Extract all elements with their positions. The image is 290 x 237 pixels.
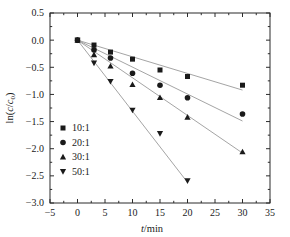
- data-point: [91, 61, 97, 67]
- x-axis-title: t/min: [141, 223, 164, 234]
- chart-figure: −505101520253035 0.50.0−0.5−1.0−1.5−2.0−…: [0, 0, 290, 237]
- svg-text:25: 25: [210, 207, 220, 218]
- legend-label: 30:1: [72, 151, 90, 162]
- legend-label: 50:1: [72, 166, 90, 177]
- data-point: [240, 83, 245, 88]
- data-point: [240, 111, 246, 117]
- data-point: [130, 57, 135, 62]
- legend-marker: [60, 140, 66, 146]
- svg-text:−2.0: −2.0: [26, 143, 44, 154]
- series-fit-lines: [78, 40, 243, 182]
- legend-marker: [60, 154, 66, 160]
- svg-text:0: 0: [75, 207, 80, 218]
- data-point: [129, 81, 135, 87]
- x-axis-tick-labels: −505101520253035: [45, 207, 275, 218]
- svg-text:−1.5: −1.5: [26, 116, 44, 127]
- svg-text:t/min: t/min: [141, 223, 164, 234]
- svg-text:0.0: 0.0: [32, 35, 45, 46]
- svg-text:5: 5: [103, 207, 108, 218]
- data-point: [130, 70, 136, 76]
- svg-text:−2.5: −2.5: [26, 170, 44, 181]
- data-point: [158, 68, 163, 73]
- data-point: [157, 82, 163, 88]
- y-axis-title: ln(c/c0): [4, 92, 17, 123]
- data-point: [108, 55, 114, 61]
- chart-legend: 10:120:130:150:1: [60, 122, 90, 177]
- data-point: [92, 43, 97, 48]
- svg-text:15: 15: [155, 207, 165, 218]
- legend-marker: [61, 126, 66, 131]
- kinetics-scatter-plot: −505101520253035 0.50.0−0.5−1.0−1.5−2.0−…: [0, 0, 290, 237]
- svg-text:−5: −5: [45, 207, 56, 218]
- data-point: [108, 50, 113, 55]
- data-point: [185, 95, 191, 101]
- svg-text:35: 35: [265, 207, 275, 218]
- legend-label: 10:1: [72, 122, 90, 133]
- svg-text:30: 30: [238, 207, 248, 218]
- svg-text:−1.0: −1.0: [26, 89, 44, 100]
- svg-text:ln(c/c0): ln(c/c0): [4, 92, 17, 123]
- data-point: [184, 178, 190, 184]
- svg-text:20: 20: [183, 207, 193, 218]
- data-point: [107, 79, 113, 85]
- svg-text:0.5: 0.5: [32, 7, 45, 18]
- svg-text:10: 10: [128, 207, 138, 218]
- svg-text:−0.5: −0.5: [26, 62, 44, 73]
- data-point: [129, 108, 135, 114]
- legend-marker: [60, 169, 66, 175]
- data-point: [157, 131, 163, 137]
- y-axis-tick-labels: 0.50.0−0.5−1.0−1.5−2.0−2.5−3.0: [26, 7, 44, 208]
- legend-label: 20:1: [72, 137, 90, 148]
- data-point: [185, 74, 190, 79]
- svg-text:−3.0: −3.0: [26, 197, 44, 208]
